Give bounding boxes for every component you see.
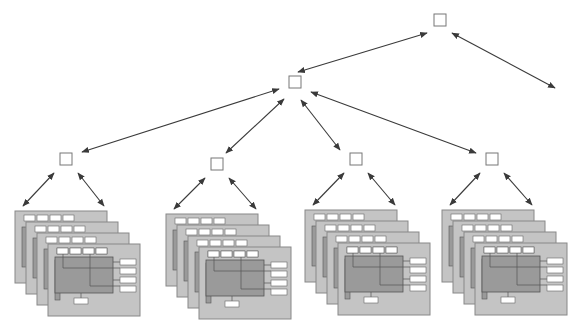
tab-widget bbox=[223, 240, 234, 246]
tab-widget bbox=[523, 247, 534, 253]
tab-widget bbox=[48, 226, 59, 232]
tab-widget bbox=[24, 215, 35, 221]
tab-widget bbox=[473, 236, 484, 242]
side-widget bbox=[120, 286, 136, 292]
tab-widget bbox=[175, 218, 186, 224]
tab-widget bbox=[362, 236, 373, 242]
tab-widget bbox=[462, 225, 473, 231]
screen-frame bbox=[199, 247, 291, 319]
tab-widget bbox=[197, 240, 208, 246]
tree-node-level1 bbox=[289, 76, 301, 88]
tab-widget bbox=[475, 225, 486, 231]
main-panel bbox=[345, 256, 403, 292]
screen-frame bbox=[475, 243, 567, 315]
tab-widget bbox=[199, 229, 210, 235]
tab-widget bbox=[63, 215, 74, 221]
tab-widget bbox=[353, 214, 364, 220]
tab-widget bbox=[484, 247, 495, 253]
bidirectional-arrow bbox=[368, 173, 395, 205]
tab-widget bbox=[37, 215, 48, 221]
tab-widget bbox=[236, 240, 247, 246]
side-widget bbox=[410, 285, 426, 291]
tab-widget bbox=[360, 247, 371, 253]
bidirectional-arrow bbox=[504, 173, 532, 205]
arrows-layer bbox=[23, 33, 555, 209]
tab-widget bbox=[70, 248, 81, 254]
bottom-widget bbox=[74, 298, 88, 304]
tab-widget bbox=[314, 214, 325, 220]
tab-widget bbox=[188, 218, 199, 224]
tab-widget bbox=[61, 226, 72, 232]
tab-widget bbox=[50, 215, 61, 221]
tab-widget bbox=[486, 236, 497, 242]
bottom-widget bbox=[225, 301, 239, 307]
bidirectional-arrow bbox=[298, 33, 427, 72]
bidirectional-arrow bbox=[313, 173, 344, 205]
main-panel bbox=[55, 257, 113, 293]
tab-widget bbox=[85, 237, 96, 243]
side-widget bbox=[547, 276, 563, 282]
bottom-widget bbox=[364, 297, 378, 303]
nodes-layer bbox=[60, 14, 498, 170]
tab-widget bbox=[46, 237, 57, 243]
tab-widget bbox=[214, 218, 225, 224]
bidirectional-arrow bbox=[78, 173, 104, 206]
bottom-widget bbox=[501, 297, 515, 303]
bidirectional-arrow bbox=[82, 89, 279, 152]
tab-widget bbox=[347, 247, 358, 253]
tab-widget bbox=[225, 229, 236, 235]
tab-widget bbox=[74, 226, 85, 232]
tree-node-root bbox=[434, 14, 446, 26]
tab-widget bbox=[349, 236, 360, 242]
tab-widget bbox=[327, 214, 338, 220]
tab-widget bbox=[501, 225, 512, 231]
tab-widget bbox=[336, 236, 347, 242]
bidirectional-arrow bbox=[226, 99, 284, 153]
tab-widget bbox=[497, 247, 508, 253]
tab-widget bbox=[72, 237, 83, 243]
tab-widget bbox=[364, 225, 375, 231]
side-widget bbox=[410, 267, 426, 273]
side-widget bbox=[271, 262, 287, 268]
main-panel bbox=[482, 256, 540, 292]
tab-widget bbox=[340, 214, 351, 220]
diagram-canvas bbox=[0, 0, 577, 332]
tab-widget bbox=[373, 247, 384, 253]
tab-widget bbox=[488, 225, 499, 231]
screen-stack bbox=[305, 210, 430, 315]
tab-widget bbox=[512, 236, 523, 242]
tab-widget bbox=[59, 237, 70, 243]
main-panel bbox=[206, 260, 264, 296]
tab-widget bbox=[221, 251, 232, 257]
tab-widget bbox=[234, 251, 245, 257]
side-widget bbox=[120, 259, 136, 265]
tab-widget bbox=[386, 247, 397, 253]
screen-stacks-layer bbox=[15, 210, 567, 319]
tab-widget bbox=[499, 236, 510, 242]
bidirectional-arrow bbox=[174, 178, 205, 209]
bidirectional-arrow bbox=[23, 173, 54, 206]
tab-widget bbox=[212, 229, 223, 235]
tab-widget bbox=[83, 248, 94, 254]
tree-node-leaf-1 bbox=[60, 153, 72, 165]
side-widget bbox=[271, 289, 287, 295]
screen-stack bbox=[442, 210, 567, 315]
screen-frame bbox=[48, 244, 140, 316]
side-widget bbox=[271, 271, 287, 277]
tab-widget bbox=[325, 225, 336, 231]
side-widget bbox=[547, 258, 563, 264]
side-widget bbox=[410, 258, 426, 264]
tab-widget bbox=[351, 225, 362, 231]
tab-widget bbox=[186, 229, 197, 235]
bidirectional-arrow bbox=[450, 173, 480, 205]
tab-widget bbox=[490, 214, 501, 220]
tab-widget bbox=[510, 247, 521, 253]
screen-stack bbox=[166, 214, 291, 319]
tab-widget bbox=[375, 236, 386, 242]
side-widget bbox=[547, 267, 563, 273]
hierarchy-diagram bbox=[0, 0, 577, 332]
side-widget bbox=[271, 280, 287, 286]
bidirectional-arrow bbox=[229, 178, 256, 209]
tree-node-leaf-3 bbox=[350, 153, 362, 165]
bidirectional-arrow bbox=[452, 33, 555, 88]
